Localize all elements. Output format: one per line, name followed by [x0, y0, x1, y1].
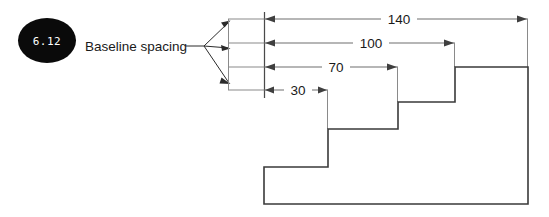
- annotation-group: Baseline spacing: [85, 21, 231, 85]
- leader-line-bottom: [204, 46, 229, 83]
- dimension-100-value: 100: [360, 36, 383, 51]
- dimension-30-value: 30: [290, 83, 305, 98]
- badge-number-label: 6.12: [33, 35, 62, 48]
- dimension-30-arrow-right: [318, 87, 327, 94]
- figure-canvas: 6.12 Baseline spacing: [0, 0, 549, 217]
- dimension-140-arrow-right: [517, 16, 527, 23]
- leader-arrowhead-middle: [221, 45, 231, 51]
- dimension-100: 100: [264, 34, 455, 67]
- dimension-100-arrow-left: [265, 40, 275, 47]
- dimension-70-value: 70: [328, 60, 343, 75]
- figure-number-badge: 6.12: [18, 18, 76, 63]
- extension-lines-group: [228, 19, 264, 90]
- dimension-140-arrow-left: [265, 16, 275, 23]
- leader-arrowhead-top: [221, 21, 231, 28]
- dimension-30-arrow-left: [265, 87, 274, 94]
- dimension-70-arrow-right: [387, 64, 397, 71]
- engineering-drawing: 6.12 Baseline spacing: [0, 0, 549, 217]
- dimension-100-arrow-right: [444, 40, 454, 47]
- dimension-140-value: 140: [388, 12, 411, 27]
- dimension-140: 140: [264, 10, 528, 67]
- baseline-spacing-label: Baseline spacing: [85, 39, 187, 54]
- dimension-30: 30: [264, 81, 328, 129]
- dimension-70-arrow-left: [265, 64, 275, 71]
